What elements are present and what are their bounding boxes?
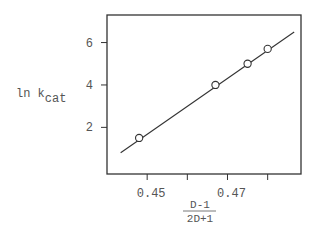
x-tick-label: 0.47 (217, 187, 246, 201)
data-point-marker (244, 60, 251, 67)
y-axis-ticks: 246 (86, 37, 107, 136)
y-tick-label: 4 (86, 79, 93, 93)
chart: 0.450.47 246 ln kcat D-1 2D+1 (0, 0, 318, 234)
y-axis-label-sub: cat (45, 92, 67, 106)
y-axis-label: ln kcat (16, 87, 66, 106)
data-point-marker (136, 134, 143, 141)
y-axis-label-main: ln k (16, 87, 45, 101)
y-tick-label: 2 (86, 121, 93, 135)
y-tick-label: 6 (86, 37, 93, 51)
data-point-marker (212, 81, 219, 88)
x-axis-label-denominator: 2D+1 (187, 213, 214, 225)
x-axis-label: D-1 2D+1 (183, 199, 216, 225)
data-point-marker (264, 45, 271, 52)
x-axis-ticks: 0.450.47 (137, 174, 268, 201)
x-tick-label: 0.45 (137, 187, 166, 201)
x-axis-label-numerator: D-1 (190, 199, 210, 211)
data-points (136, 45, 272, 141)
